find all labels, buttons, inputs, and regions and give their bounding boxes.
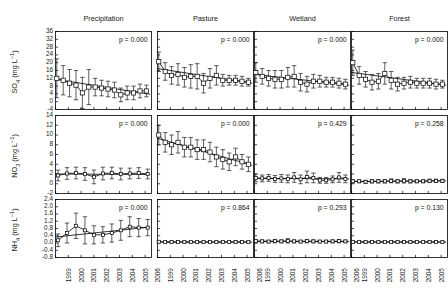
data-point-marker	[157, 240, 160, 243]
data-point-marker	[164, 241, 167, 244]
data-point-marker	[390, 240, 393, 243]
data-point-marker	[260, 74, 264, 78]
y-tick-label: 32	[27, 36, 53, 42]
x-tick-label: 2002	[206, 268, 212, 282]
data-point-marker	[273, 240, 276, 243]
panel-no3-precipitation	[56, 116, 152, 194]
data-point-marker	[331, 240, 334, 243]
data-point-marker	[83, 173, 86, 176]
data-point-marker	[208, 241, 211, 244]
x-tick-label: 1999	[362, 268, 368, 282]
data-point-marker	[201, 148, 205, 152]
data-point-marker	[311, 79, 315, 83]
p-value-annotation: p = 0.000	[119, 36, 148, 43]
data-point-marker	[330, 80, 334, 84]
data-point-marker	[377, 241, 380, 244]
data-point-marker	[286, 177, 289, 180]
x-tick-label: 2003	[413, 268, 419, 282]
p-value-annotation: p = 0.000	[221, 36, 250, 43]
data-point-marker	[376, 79, 380, 83]
p-value-annotation: p = 0.000	[415, 36, 444, 43]
y-tick-label: 1.6	[27, 210, 53, 216]
y-tick-label: 8	[27, 141, 53, 147]
p-value-annotation: p = 0.258	[415, 120, 444, 127]
data-point-marker	[119, 93, 123, 97]
data-point-marker	[305, 175, 308, 178]
data-point-marker	[169, 73, 173, 77]
data-point-marker	[318, 79, 322, 83]
y-tick-label: 0	[27, 98, 53, 104]
data-point-marker	[293, 176, 296, 179]
y-tick-label: 0.8	[27, 225, 53, 231]
data-point-marker	[92, 175, 95, 178]
data-point-marker	[128, 172, 131, 175]
panel-so4-wetland	[254, 32, 351, 110]
data-point-marker	[55, 76, 59, 80]
data-point-marker	[383, 241, 386, 244]
data-point-marker	[312, 176, 315, 179]
data-point-marker	[57, 174, 60, 177]
panel-so4-forest	[351, 32, 448, 110]
y-tick-label: 28	[27, 44, 53, 50]
data-point-marker	[292, 74, 296, 78]
panel-frame	[255, 116, 351, 194]
data-point-marker	[402, 81, 406, 85]
data-point-marker	[299, 178, 302, 181]
data-point-marker	[261, 177, 264, 180]
y-tick-label: 16	[27, 67, 53, 73]
data-point-marker	[441, 241, 444, 244]
data-point-marker	[214, 155, 218, 159]
data-point-marker	[428, 179, 431, 182]
x-tick-label: 2000	[278, 268, 284, 282]
data-point-marker	[427, 81, 431, 85]
data-point-marker	[146, 173, 149, 176]
data-point-marker	[298, 80, 302, 84]
data-point-marker	[389, 78, 393, 82]
y-tick-label: 2	[27, 170, 53, 176]
data-point-marker	[254, 240, 257, 243]
data-point-marker	[61, 78, 65, 82]
data-point-marker	[318, 179, 321, 182]
data-point-marker	[195, 74, 199, 78]
data-point-marker	[221, 157, 225, 161]
data-point-marker	[83, 229, 86, 232]
data-point-marker	[415, 241, 418, 244]
data-point-marker	[286, 239, 289, 242]
p-value-annotation: p = 0.000	[119, 204, 148, 211]
y-tick-label: 36	[27, 28, 53, 34]
data-point-marker	[363, 77, 367, 81]
x-tick-label: 2006	[354, 268, 360, 282]
x-tick-label: 2001	[290, 268, 296, 282]
data-point-marker	[176, 72, 180, 76]
y-tick-label: 1.2	[27, 218, 53, 224]
data-point-marker	[344, 240, 347, 243]
data-point-marker	[364, 241, 367, 244]
data-point-marker	[137, 172, 140, 175]
data-point-marker	[422, 241, 425, 244]
x-tick-label: 2001	[193, 268, 199, 282]
data-point-marker	[383, 180, 386, 183]
x-tick-label: 2003	[316, 268, 322, 282]
data-point-marker	[299, 240, 302, 243]
data-point-marker	[343, 82, 347, 86]
data-point-marker	[157, 60, 161, 64]
data-point-marker	[182, 145, 186, 149]
x-tick-label: 2005	[245, 268, 251, 282]
x-tick-label: 2004	[426, 268, 432, 282]
data-point-marker	[128, 225, 131, 228]
data-point-marker	[293, 240, 296, 243]
x-tick-label: 2006	[257, 268, 263, 282]
data-point-marker	[408, 80, 412, 84]
panel-so4-precipitation	[55, 32, 152, 110]
data-point-marker	[364, 180, 367, 183]
data-point-marker	[422, 180, 425, 183]
data-point-marker	[325, 240, 328, 243]
data-point-marker	[377, 180, 380, 183]
x-tick-label: 2000	[79, 268, 85, 282]
data-point-marker	[358, 180, 361, 183]
data-point-marker	[434, 240, 437, 243]
x-tick-label: 2001	[91, 268, 97, 282]
data-point-marker	[146, 226, 149, 229]
data-point-marker	[227, 78, 231, 82]
data-point-marker	[305, 240, 308, 243]
